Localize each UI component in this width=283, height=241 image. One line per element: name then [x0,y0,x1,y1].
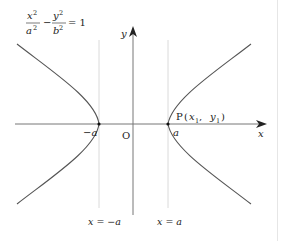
equation: x 2 a 2 − y 2 b 2 = 1 [26,9,86,36]
eq-y-num: y [52,10,59,21]
eq-y-exp: 2 [59,9,63,17]
vertex-left-dot [97,122,100,125]
vertex-left-label: −a [83,127,97,138]
point-p-label: P ( x 1 , y 1 ) [176,111,225,125]
eq-minus: − [43,17,51,28]
p-y: y [209,111,216,122]
eq-y-den-exp: 2 [59,24,63,32]
p-open-paren: ( [184,111,188,122]
eq-x-den-exp: 2 [33,24,37,32]
y-axis-label: y [120,28,127,39]
guide-label-right: x = a [157,216,182,227]
p-y-sub: 1 [216,117,220,125]
x-axis-label: x [258,128,264,139]
eq-rhs: = 1 [68,17,86,28]
eq-x-exp: 2 [33,9,37,17]
hyperbola-diagram: x 2 a 2 − y 2 b 2 = 1 y x O −a a P ( x 1… [0,0,283,241]
vertex-right-label: a [173,127,179,138]
guide-label-left: x = −a [88,216,121,227]
eq-x-den: a [26,25,32,36]
p-close-paren: ) [221,111,225,122]
p-comma: , [199,111,202,122]
p-letter: P [176,111,183,122]
vertex-right-dot [166,122,169,125]
origin-label: O [122,130,130,141]
